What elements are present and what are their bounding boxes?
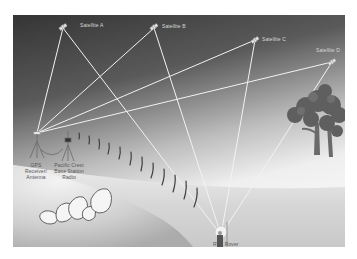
satellite-b-label: Satellite B [162, 23, 186, 29]
gps-receiver-label: GPS Receiver/ Antenna [21, 162, 51, 180]
rtk-gps-diagram: Satellite A Satellite B Satellite C Sate… [13, 15, 345, 247]
diagram-graphic [13, 15, 345, 247]
satellite-d-label: Satellite D [316, 47, 340, 53]
satellite-a-label: Satellite A [80, 22, 103, 28]
base-station-radio-label: Pacific Crest Base Station Radio [53, 162, 85, 180]
tree-trunk-left [314, 123, 320, 155]
rtk-rover-label: RTK Rover [213, 241, 239, 247]
satellite-c-label: Satellite C [262, 36, 286, 42]
figure-canvas: Satellite A Satellite B Satellite C Sate… [0, 0, 357, 259]
